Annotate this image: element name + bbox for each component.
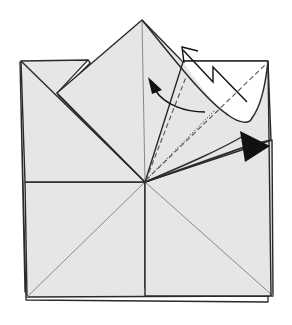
origami-diagram	[0, 0, 292, 325]
